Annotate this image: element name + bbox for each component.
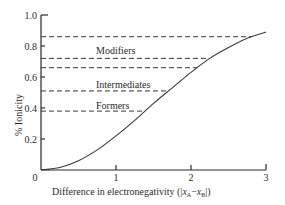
y-tick-label: 0.8 (25, 41, 38, 52)
axes (41, 15, 266, 170)
reference-lines (41, 37, 252, 111)
y-axis-label: % Ionicity (13, 94, 24, 136)
x-tick-labels: 0 1 2 3 (33, 172, 269, 183)
y-tick-label: 0.6 (25, 72, 38, 83)
y-tick-label: 0.2 (25, 134, 38, 145)
region-label-formers: Formers (96, 100, 129, 111)
y-tick-labels: 1.0 0.8 0.6 0.4 0.2 (25, 10, 38, 145)
ionicity-curve (41, 32, 266, 170)
region-label-modifiers: Modifiers (96, 45, 136, 56)
y-tick-label: 1.0 (25, 10, 38, 21)
x-tick-label: 0 (33, 172, 38, 183)
x-axis-label-suffix: |) (205, 186, 210, 198)
x-tick-label: 1 (114, 172, 119, 183)
ionicity-chart: 1.0 0.8 0.6 0.4 0.2 0 1 2 3 % Ionicity D… (0, 0, 285, 205)
x-axis-label-prefix: Difference in electronegativity (| (52, 186, 182, 198)
region-labels: Modifiers Intermediates Formers (96, 45, 151, 111)
x-tick-label: 2 (189, 172, 194, 183)
y-tick-label: 0.4 (25, 103, 38, 114)
x-tick-label: 3 (264, 172, 269, 183)
region-label-intermediates: Intermediates (96, 79, 151, 90)
x-axis-label: Difference in electronegativity (|xA−xB|… (52, 186, 211, 198)
